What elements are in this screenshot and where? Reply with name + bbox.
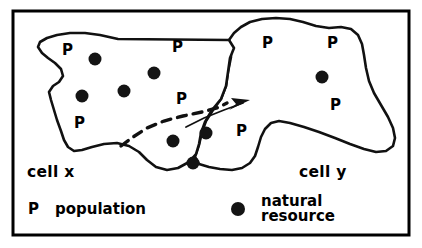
resource-dot <box>76 90 89 103</box>
legend-resource-dot-icon <box>231 202 245 216</box>
resource-dot <box>316 71 329 84</box>
population-label: P <box>176 90 187 108</box>
resource-dot <box>148 67 161 80</box>
figure-container: P P P P P P P P cell x cell y P populati… <box>0 0 422 248</box>
resource-dot <box>118 85 131 98</box>
legend-resource-label-line2: resource <box>261 207 335 225</box>
population-label: P <box>172 38 183 56</box>
cell-y-label: cell y <box>299 163 347 181</box>
cell-x-label: cell x <box>27 163 75 181</box>
population-label: P <box>74 114 85 132</box>
population-label: P <box>330 96 341 114</box>
population-label: P <box>62 41 73 59</box>
resource-dot <box>89 53 102 66</box>
resource-dot <box>167 135 180 148</box>
resource-dot <box>187 157 200 170</box>
resource-dot <box>200 127 213 140</box>
population-label: P <box>236 122 247 140</box>
population-label: P <box>262 34 273 52</box>
population-label: P <box>327 34 338 52</box>
legend-population-key: P <box>28 200 39 218</box>
legend-population-label: population <box>55 200 146 218</box>
